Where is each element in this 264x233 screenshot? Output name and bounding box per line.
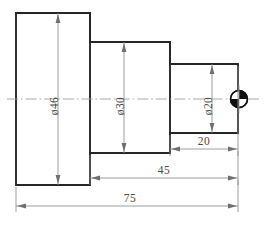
- diameter-46-label: ø46: [48, 97, 60, 115]
- length-20-arrow-left: [171, 147, 180, 152]
- length-45-label: 45: [158, 164, 170, 176]
- length-75-label: 75: [124, 192, 136, 204]
- stepped-shaft-drawing: ø46 ø30 ø20: [0, 0, 264, 233]
- length-20-label: 20: [198, 135, 210, 147]
- length-75-arrow-left: [17, 204, 26, 209]
- technical-drawing-canvas: ø46 ø30 ø20: [0, 0, 264, 233]
- length-75-arrow-right: [228, 204, 237, 209]
- dimension-length-45: 45: [90, 151, 238, 185]
- diameter-20-label: ø20: [202, 97, 214, 115]
- diameter-30-label: ø30: [114, 97, 126, 115]
- length-20-arrow-right: [228, 147, 237, 152]
- length-45-arrow-left: [91, 176, 100, 181]
- length-45-arrow-right: [228, 176, 237, 181]
